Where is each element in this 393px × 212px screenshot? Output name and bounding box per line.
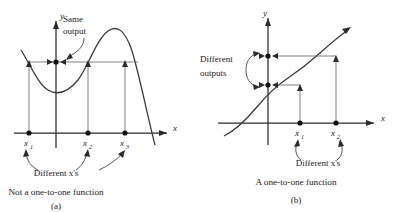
panel-a-input-dot-1 bbox=[26, 130, 31, 135]
panel-b-arrowhead-left-upper bbox=[259, 53, 265, 59]
panel-a-output-note-line1: Same bbox=[63, 14, 83, 24]
panel-b-input-label-1: x 1 bbox=[294, 128, 304, 140]
panel-b-arrowhead-right-upper bbox=[272, 53, 278, 59]
panel-b-output-note-line1: Different bbox=[200, 54, 233, 64]
figure-root: x y x 1 x 2 x 3 bbox=[0, 0, 393, 212]
panel-b-id-label: (b) bbox=[291, 195, 302, 205]
panel-b-input-note-text: Different x's bbox=[296, 158, 341, 168]
svg-text:x: x bbox=[330, 128, 335, 138]
svg-text:1: 1 bbox=[30, 143, 33, 150]
panel-b-arrowhead-right-lower bbox=[272, 82, 278, 88]
panel-a-arrowhead-up-2 bbox=[85, 60, 91, 67]
panel-b-curve bbox=[224, 30, 348, 136]
panel-a-input-note: Different x's bbox=[23, 149, 125, 178]
panel-b-arrowhead-left-lower bbox=[259, 82, 265, 88]
panel-a-id-label: (a) bbox=[51, 201, 61, 211]
panel-a-input-label-3: x 3 bbox=[119, 138, 129, 150]
panel-a-input-dot-2 bbox=[85, 130, 90, 135]
svg-text:3: 3 bbox=[125, 143, 129, 150]
panel-b-input-dot-1 bbox=[297, 120, 302, 125]
panel-b-output-note-leader-lower bbox=[246, 70, 256, 86]
svg-text:x: x bbox=[82, 138, 87, 148]
panel-a-arrowhead-up-3 bbox=[122, 60, 128, 67]
panel-a-input-label-2: x 2 bbox=[82, 138, 92, 150]
svg-text:1: 1 bbox=[301, 133, 304, 140]
panel-a-input-dot-3 bbox=[122, 130, 127, 135]
svg-text:2: 2 bbox=[337, 133, 340, 140]
panel-b-y-axis bbox=[265, 18, 271, 145]
panel-a-arrowhead-right bbox=[60, 59, 66, 65]
panel-a-caption: Not a one-to-one function bbox=[8, 187, 104, 197]
panel-a-output-note-leader bbox=[69, 38, 84, 57]
svg-text:x: x bbox=[119, 138, 124, 148]
svg-text:x: x bbox=[294, 128, 299, 138]
panel-b-input-note: Different x's bbox=[294, 139, 344, 168]
panel-a-arrowhead-left bbox=[47, 59, 53, 65]
svg-text:2: 2 bbox=[89, 143, 92, 150]
panel-a-input-note-leader-far-right bbox=[99, 154, 122, 170]
panel-a-input-note-text: Different x's bbox=[34, 168, 79, 178]
panel-b-input-label-2: x 2 bbox=[330, 128, 340, 140]
panel-b-output-dot-upper bbox=[265, 53, 270, 58]
panel-b-y-axis-label: y bbox=[262, 8, 267, 18]
svg-text:x: x bbox=[23, 138, 28, 148]
panel-b-caption: A one-to-one function bbox=[255, 177, 337, 187]
panel-a-output-dot bbox=[53, 59, 58, 64]
panel-a-x-axis-label: x bbox=[172, 123, 177, 133]
panel-a-output-note-arrowhead bbox=[66, 53, 73, 60]
panel-a-y-axis bbox=[53, 21, 59, 148]
panel-b-input-dot-2 bbox=[333, 120, 338, 125]
panel-b-output-note-line2: outputs bbox=[200, 68, 227, 78]
panel-b-graph: x y x 1 x 2 Differen bbox=[196, 0, 393, 212]
panel-a-output-note-line2: output bbox=[63, 26, 87, 36]
panel-a-graph: x y x 1 x 2 x 3 bbox=[0, 0, 196, 212]
panel-b-output-dot-lower bbox=[265, 82, 270, 87]
panel-b-x-axis-label: x bbox=[380, 113, 385, 123]
panel-a-input-label-1: x 1 bbox=[23, 138, 33, 150]
